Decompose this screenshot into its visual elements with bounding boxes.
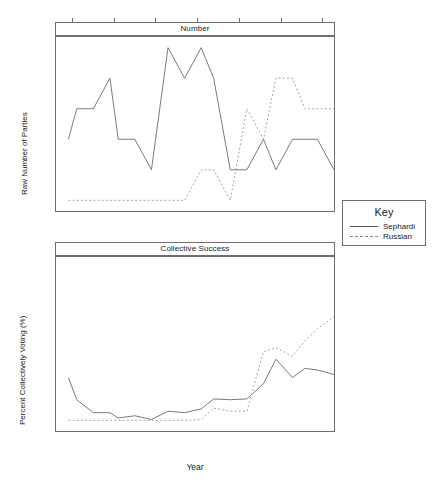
ytick-mark-success-20 <box>55 389 56 390</box>
panel-strip-collective-success: Collective Success <box>55 242 335 256</box>
plot-area-number: 0 1 2 3 4 5 <box>55 36 335 212</box>
series-russian-collective-success <box>68 317 334 421</box>
xtick-mark-top-1960 <box>114 18 115 22</box>
xtick-mark-top-1980 <box>197 18 198 22</box>
series-sephardi-collective-success <box>68 359 334 419</box>
ytick-mark-number-3 <box>55 105 56 106</box>
yaxis-label-collective-success: Percent Collectively Voting (%) <box>18 316 27 425</box>
xtick-mark-1980 <box>197 431 198 432</box>
series-canvas-collective-success <box>56 257 334 431</box>
ytick-mark-success-100 <box>55 267 56 268</box>
xtick-mark-top-1950 <box>72 18 73 22</box>
panel-title-number: Number <box>180 25 209 33</box>
xtick-mark-1990 <box>239 431 240 432</box>
series-canvas-number <box>56 37 334 211</box>
xtick-mark-1960 <box>114 431 115 432</box>
ytick-mark-number-5 <box>55 43 56 44</box>
panel-strip-number: Number <box>55 22 335 36</box>
legend-entry-russian: Russian <box>350 231 418 241</box>
legend-entry-sephardi: Sephardi <box>350 221 418 231</box>
ytick-mark-success-40 <box>55 359 56 360</box>
legend-title: Key <box>350 206 418 218</box>
xtick-mark-top-2010 <box>322 18 323 22</box>
xtick-mark-2010 <box>322 431 323 432</box>
series-sephardi-number <box>68 48 334 170</box>
figure-panel-plot: Number 0 1 2 3 4 5 <box>0 0 433 486</box>
xaxis-label: Year <box>186 462 203 472</box>
xtick-mark-top-1990 <box>239 18 240 22</box>
ytick-mark-success-60 <box>55 328 56 329</box>
xtick-mark-2000 <box>280 431 281 432</box>
legend-label-sephardi: Sephardi <box>383 222 415 231</box>
ytick-mark-success-80 <box>55 298 56 299</box>
xtick-mark-top-2000 <box>281 18 282 22</box>
legend-key: Key Sephardi Russian <box>342 200 426 246</box>
legend-line-solid-icon <box>350 226 378 227</box>
ytick-mark-number-4 <box>55 74 56 75</box>
xtick-mark-top-1970 <box>155 18 156 22</box>
legend-label-russian: Russian <box>383 232 412 241</box>
yaxis-label-number: Raw Number of Parties <box>20 112 29 195</box>
panel-title-collective-success: Collective Success <box>161 245 230 253</box>
panel-collective-success: Collective Success 0 20 40 60 80 100 <box>55 242 335 432</box>
xtick-mark-1950 <box>73 431 74 432</box>
ytick-mark-success-0 <box>55 420 56 421</box>
ytick-mark-number-0 <box>55 197 56 198</box>
xtick-mark-1970 <box>156 431 157 432</box>
ytick-mark-number-2 <box>55 136 56 137</box>
plot-area-collective-success: 0 20 40 60 80 100 1950 1960 1970 1980 19… <box>55 256 335 432</box>
legend-line-dashed-icon <box>350 236 378 237</box>
panel-number: Number 0 1 2 3 4 5 <box>55 22 335 212</box>
ytick-mark-number-1 <box>55 167 56 168</box>
